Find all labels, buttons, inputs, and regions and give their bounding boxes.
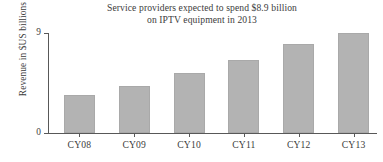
x-tick-mark-cy13	[354, 133, 355, 137]
chart-figure: Service providers expected to spend $8.9…	[0, 0, 383, 162]
bar-cy09	[119, 86, 150, 133]
x-tick-mark-cy09	[134, 133, 135, 137]
y-axis-label: Revenue in $US billions	[18, 2, 28, 96]
y-tick-mark-0: 0	[44, 133, 49, 134]
y-tick-mark-9: 9	[44, 33, 49, 34]
x-axis-tick-label-cy10: CY10	[177, 139, 201, 150]
bar-cy13	[338, 33, 369, 133]
bar-cy11	[228, 60, 259, 133]
x-tick-mark-cy12	[299, 133, 300, 137]
x-axis-tick-label-cy08: CY08	[68, 139, 92, 150]
y-tick-label-9: 9	[36, 28, 41, 37]
x-axis-tick-label-cy13: CY13	[342, 139, 366, 150]
y-axis-label-container: Revenue in $US billions	[12, 0, 26, 101]
x-axis-tick-label-cy12: CY12	[287, 139, 311, 150]
x-tick-mark-cy08	[79, 133, 80, 137]
x-tick-mark-cy10	[189, 133, 190, 137]
plot-area: 9 0 CY08CY09CY10CY11CY12CY13	[48, 33, 377, 133]
x-axis-tick-label-cy09: CY09	[122, 139, 146, 150]
x-axis-tick-label-cy11: CY11	[232, 139, 255, 150]
bar-cy12	[283, 44, 314, 133]
bar-cy10	[174, 73, 205, 133]
bar-cy08	[64, 95, 95, 133]
x-tick-mark-cy11	[244, 133, 245, 137]
x-axis-line	[48, 133, 377, 134]
chart-title: Service providers expected to spend $8.9…	[52, 2, 352, 25]
y-tick-label-0: 0	[36, 128, 41, 137]
y-axis-line	[48, 33, 49, 133]
